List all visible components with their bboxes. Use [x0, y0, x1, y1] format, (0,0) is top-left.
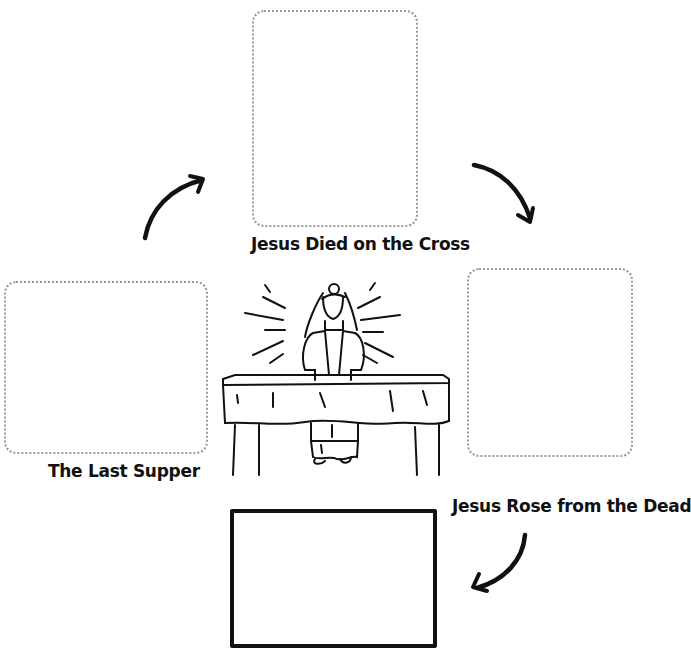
- arrow-up-right-icon: [140, 170, 220, 250]
- card-last-supper: [4, 281, 208, 454]
- priest-at-altar-illustration: [215, 275, 455, 475]
- label-last-supper: The Last Supper: [48, 461, 200, 481]
- card-blank: [230, 509, 437, 648]
- arrow-down-left-icon: [465, 530, 545, 610]
- label-jesus-died: Jesus Died on the Cross: [251, 234, 470, 254]
- label-jesus-rose: Jesus Rose from the Dead: [452, 496, 691, 516]
- arrow-down-right-icon: [470, 160, 550, 240]
- card-jesus-died: [252, 10, 418, 227]
- card-jesus-rose: [467, 268, 633, 457]
